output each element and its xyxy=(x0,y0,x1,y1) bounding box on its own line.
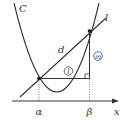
beta-label: β xyxy=(86,106,93,117)
intersection-point-beta xyxy=(88,29,92,33)
circled-l-text: l xyxy=(67,67,70,76)
line-l xyxy=(20,18,106,97)
line-label: l xyxy=(105,12,108,23)
circled-m-text: m xyxy=(95,53,101,61)
curve-label: C xyxy=(19,3,27,14)
x-axis-label: x xyxy=(114,106,120,117)
alpha-label: α xyxy=(36,106,43,117)
distance-label: d xyxy=(58,44,64,55)
x-axis-arrow-icon xyxy=(112,99,119,104)
parabola-line-diagram: C l d l m α β x xyxy=(0,0,129,125)
right-angle-marker xyxy=(85,74,90,79)
intersection-point-alpha xyxy=(37,77,41,81)
